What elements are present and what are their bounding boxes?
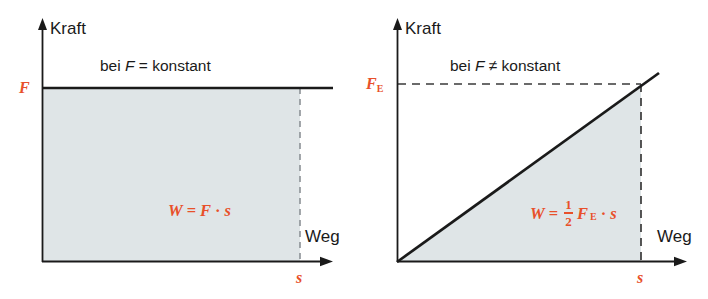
formula-lhs: W <box>530 206 545 223</box>
x-axis-label: Weg <box>657 228 692 245</box>
caption-relation: ≠ <box>489 57 498 74</box>
caption-relation: = <box>139 57 148 74</box>
plot-constant-force <box>0 0 354 299</box>
panel-varying-force: Kraft Weg bei F ≠ konstant FE s W = 1 2 … <box>354 0 708 299</box>
fraction-numerator: 1 <box>564 198 573 211</box>
fraction-denominator: 2 <box>564 215 573 228</box>
caption-symbol: F <box>475 57 484 74</box>
formula-dot: · <box>601 206 607 223</box>
y-tick-label-FE: FE <box>366 76 383 92</box>
x-axis-label: Weg <box>305 228 340 245</box>
caption-prefix: bei <box>450 57 471 74</box>
y-tick-base: F <box>366 75 377 92</box>
x-axis-arrowhead <box>674 257 687 266</box>
formula-second: s <box>225 203 231 220</box>
y-axis-arrowhead <box>393 18 402 30</box>
panel-caption: bei F ≠ konstant <box>450 58 560 74</box>
x-axis-arrowhead <box>320 257 333 266</box>
formula-second: s <box>610 206 616 223</box>
x-tick-label-s: s <box>637 270 643 286</box>
formula-fraction-one-half: 1 2 <box>564 198 573 228</box>
y-axis-label: Kraft <box>405 20 441 37</box>
y-axis-label: Kraft <box>50 20 86 37</box>
panel-constant-force: Kraft Weg bei F = konstant F s W = F · s <box>0 0 354 299</box>
caption-symbol: F <box>125 57 134 74</box>
caption-suffix: konstant <box>152 57 211 74</box>
work-formula: W = F · s <box>168 203 231 220</box>
formula-factor: F <box>200 203 211 220</box>
y-axis-arrowhead <box>38 18 47 30</box>
work-area-rectangle <box>43 88 300 262</box>
caption-suffix: konstant <box>502 57 561 74</box>
formula-equals: = <box>549 206 558 223</box>
plot-varying-force <box>354 0 708 299</box>
x-tick-label-s: s <box>296 270 302 286</box>
formula-factor-subscript: E <box>590 212 597 222</box>
caption-prefix: bei <box>100 57 121 74</box>
force-distance-diagram: Kraft Weg bei F = konstant F s W = F · s <box>0 0 708 299</box>
formula-dot: · <box>215 203 221 220</box>
y-tick-subscript: E <box>377 83 384 94</box>
y-tick-label-F: F <box>19 80 30 96</box>
formula-lhs: W <box>168 203 183 220</box>
formula-factor: F <box>577 206 588 223</box>
panel-caption: bei F = konstant <box>100 58 211 74</box>
work-formula: W = 1 2 FE · s <box>530 199 617 229</box>
formula-equals: = <box>187 203 196 220</box>
